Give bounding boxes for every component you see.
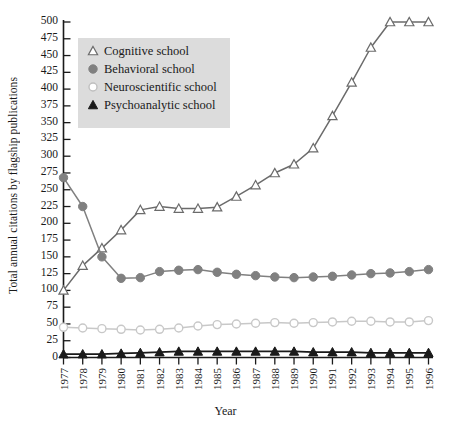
y-tick-label: 25 — [20, 333, 58, 345]
data-point-marker — [328, 318, 336, 326]
series-neuroscientific-school — [60, 317, 433, 334]
data-point-marker — [252, 319, 260, 327]
y-tick-label: 375 — [20, 98, 58, 110]
x-tick-label: 1989 — [288, 368, 300, 390]
legend-item-cognitive-school[interactable]: Cognitive school — [78, 42, 230, 60]
data-point-marker — [232, 270, 240, 278]
chart-legend: Cognitive schoolBehavioral schoolNeurosc… — [78, 38, 230, 128]
data-point-marker — [79, 202, 87, 210]
data-point-marker — [251, 180, 260, 188]
y-tick-label: 250 — [20, 182, 58, 194]
x-tick-label: 1987 — [250, 368, 262, 390]
legend-item-neuroscientific-school[interactable]: Neuroscientific school — [78, 78, 230, 96]
y-tick-label: 300 — [20, 148, 58, 160]
x-tick-label: 1991 — [326, 368, 338, 390]
data-point-marker — [59, 173, 67, 181]
data-point-marker — [270, 168, 279, 176]
legend-item-psychoanalytic-school[interactable]: Psychoanalytic school — [78, 96, 230, 114]
series-psychoanalytic-school — [59, 347, 433, 358]
data-point-marker — [89, 65, 97, 73]
data-point-marker — [271, 273, 279, 281]
y-tick-label: 350 — [20, 115, 58, 127]
triangle-up-filled-icon — [85, 98, 101, 112]
data-point-marker — [88, 46, 97, 54]
data-point-marker — [425, 317, 433, 325]
data-point-marker — [290, 273, 298, 281]
data-point-marker — [156, 325, 164, 333]
y-tick-label: 325 — [20, 131, 58, 143]
data-point-marker — [117, 325, 125, 333]
data-point-marker — [60, 323, 68, 331]
x-tick-label: 1990 — [307, 368, 319, 390]
data-point-marker — [271, 319, 279, 327]
data-point-marker — [194, 322, 202, 330]
y-tick-label: 400 — [20, 81, 58, 93]
y-tick-label: 475 — [20, 31, 58, 43]
circle-open-icon — [85, 80, 101, 94]
data-point-marker — [328, 272, 336, 280]
x-tick-label: 1982 — [154, 368, 166, 390]
y-tick-label: 150 — [20, 249, 58, 261]
data-point-marker — [175, 266, 183, 274]
y-tick-label: 450 — [20, 48, 58, 60]
data-point-marker — [405, 318, 413, 326]
data-point-marker — [251, 271, 259, 279]
circle-filled-icon — [85, 62, 101, 76]
data-point-marker — [232, 192, 241, 200]
data-point-marker — [136, 326, 144, 334]
y-tick-label: 100 — [20, 282, 58, 294]
x-tick-label: 1994 — [384, 368, 396, 390]
data-point-marker — [347, 78, 356, 86]
data-point-marker — [405, 267, 413, 275]
triangle-up-open-icon — [85, 44, 101, 58]
x-tick-label: 1992 — [346, 368, 358, 390]
data-point-marker — [213, 268, 221, 276]
x-tick-label: 1980 — [115, 368, 127, 390]
y-axis-ticks — [64, 22, 71, 358]
y-tick-label: 500 — [20, 14, 58, 26]
data-point-marker — [194, 265, 202, 273]
data-point-marker — [348, 317, 356, 325]
data-point-marker — [155, 202, 164, 210]
legend-item-label: Neuroscientific school — [101, 80, 217, 95]
data-point-marker — [424, 265, 432, 273]
series-line — [64, 178, 429, 279]
data-point-marker — [367, 317, 375, 325]
x-tick-label: 1996 — [423, 368, 435, 390]
data-point-marker — [386, 269, 394, 277]
y-tick-label: 175 — [20, 232, 58, 244]
data-point-marker — [88, 100, 97, 108]
y-tick-label: 200 — [20, 215, 58, 227]
x-tick-label: 1979 — [96, 368, 108, 390]
data-point-marker — [328, 111, 337, 119]
data-point-marker — [89, 83, 97, 91]
x-tick-label: 1993 — [365, 368, 377, 390]
x-tick-label: 1985 — [211, 368, 223, 390]
x-tick-label: 1978 — [77, 368, 89, 390]
x-tick-label: 1995 — [403, 368, 415, 390]
data-point-marker — [98, 325, 106, 333]
data-point-marker — [367, 269, 375, 277]
x-tick-label: 1986 — [230, 368, 242, 390]
x-tick-label: 1983 — [173, 368, 185, 390]
x-axis-ticks — [64, 358, 429, 365]
x-tick-label: 1981 — [134, 368, 146, 390]
data-point-marker — [175, 324, 183, 332]
legend-item-behavioral-school[interactable]: Behavioral school — [78, 60, 230, 78]
data-point-marker — [155, 267, 163, 275]
data-point-marker — [79, 324, 87, 332]
x-tick-label: 1977 — [58, 368, 70, 390]
legend-item-label: Psychoanalytic school — [101, 98, 215, 113]
data-point-marker — [136, 273, 144, 281]
data-point-marker — [290, 319, 298, 327]
y-tick-label: 50 — [20, 316, 58, 328]
data-point-marker — [309, 144, 318, 152]
series-behavioral-school — [59, 173, 432, 282]
x-tick-label: 1988 — [269, 368, 281, 390]
data-point-marker — [309, 319, 317, 327]
data-point-marker — [232, 320, 240, 328]
data-point-marker — [117, 274, 125, 282]
legend-item-label: Behavioral school — [101, 62, 195, 77]
data-point-marker — [347, 271, 355, 279]
data-point-marker — [98, 253, 106, 261]
